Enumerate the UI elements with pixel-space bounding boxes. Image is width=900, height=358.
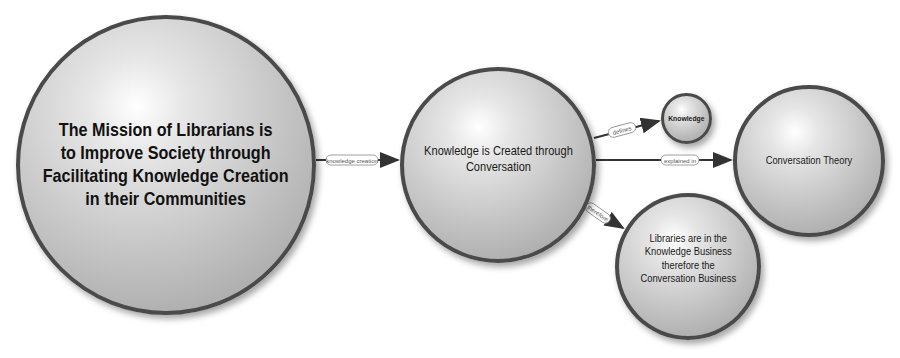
concept-node-knowledge-created[interactable]: Knowledge is Created through Conversatio… — [400, 67, 596, 263]
link-defines[interactable]: defines — [594, 121, 659, 138]
node-label: Conversation Theory — [766, 154, 853, 167]
node-label: The Mission of Librarians is to Improve … — [43, 119, 289, 210]
concept-node-conversation-theory[interactable]: Conversation Theory — [733, 85, 885, 237]
node-label: Knowledge is Created through Conversatio… — [424, 143, 573, 174]
node-label: Knowledge — [668, 114, 704, 124]
node-label: Libraries are in the Knowledge Business … — [640, 232, 736, 285]
concept-node-knowledge[interactable]: Knowledge — [661, 93, 712, 144]
link-therefore[interactable]: therefore — [584, 201, 623, 228]
concept-node-mission[interactable]: The Mission of Librarians is to Improve … — [16, 15, 316, 315]
concept-node-libraries[interactable]: Libraries are in the Knowledge Business … — [615, 193, 761, 340]
link-label: explained in — [664, 158, 696, 164]
link-knowledge-creation[interactable]: knowledge creation — [316, 155, 398, 165]
link-label: knowledge creation — [326, 158, 378, 164]
link-explained-in[interactable]: explained in — [596, 155, 731, 165]
